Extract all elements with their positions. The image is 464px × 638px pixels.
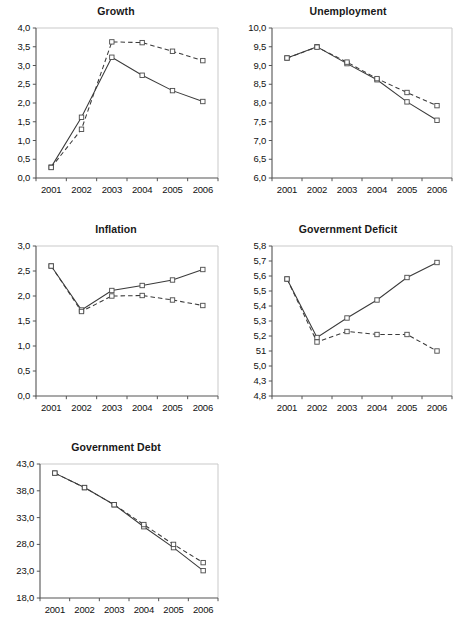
data-point-marker xyxy=(315,335,319,339)
chart-title-government-debt: Government Debt xyxy=(0,440,232,454)
y-tick-label: 23,0 xyxy=(16,566,34,576)
data-point-marker xyxy=(315,45,319,49)
data-point-marker xyxy=(142,522,146,526)
plot-frame xyxy=(40,464,218,598)
y-tick-label: 7,5 xyxy=(253,117,266,127)
chart-title-unemployment: Unemployment xyxy=(232,4,464,18)
data-point-marker xyxy=(435,260,439,264)
y-tick-label: 10,0 xyxy=(248,23,266,33)
y-tick-label: 2,5 xyxy=(17,80,30,90)
data-point-marker xyxy=(435,118,439,122)
x-tick-label: 2005 xyxy=(162,403,182,413)
data-point-marker xyxy=(49,165,53,169)
y-tick-label: 5,7 xyxy=(253,256,266,266)
data-point-marker xyxy=(110,55,114,59)
y-tick-label: 0,5 xyxy=(17,155,30,165)
data-point-marker xyxy=(79,309,83,313)
data-point-marker xyxy=(79,127,83,131)
data-point-marker xyxy=(201,58,205,62)
chart-title-growth: Growth xyxy=(0,4,232,18)
y-tick-label: 0,0 xyxy=(17,391,30,401)
y-tick-label: 43,0 xyxy=(16,459,34,469)
chart-panel-government-debt: Government Debt 18,023,028,033,038,043,0… xyxy=(0,440,232,636)
data-point-marker xyxy=(285,277,289,281)
data-point-marker xyxy=(435,349,439,353)
y-tick-label: 5,6 xyxy=(253,271,266,281)
y-tick-label: 3,5 xyxy=(17,42,30,52)
data-point-marker xyxy=(201,568,205,572)
y-tick-label: 9,5 xyxy=(253,42,266,52)
y-tick-label: 2,5 xyxy=(17,266,30,276)
x-tick-label: 2002 xyxy=(74,605,94,615)
x-tick-label: 2001 xyxy=(45,605,65,615)
data-point-marker xyxy=(112,503,116,507)
y-tick-label: 28,0 xyxy=(16,540,34,550)
series-line-solid xyxy=(287,263,437,338)
y-tick-label: 0,0 xyxy=(17,173,30,183)
data-point-marker xyxy=(140,283,144,287)
y-tick-label: 3,0 xyxy=(17,61,30,71)
series-line-solid xyxy=(51,57,203,167)
data-point-marker xyxy=(170,278,174,282)
x-tick-label: 2003 xyxy=(337,185,357,195)
y-tick-label: 8,0 xyxy=(253,98,266,108)
data-point-marker xyxy=(79,115,83,119)
x-tick-label: 2004 xyxy=(132,185,152,195)
y-tick-label: 3,0 xyxy=(17,241,30,251)
y-tick-label: 7,0 xyxy=(253,136,266,146)
data-point-marker xyxy=(375,332,379,336)
x-tick-label: 2001 xyxy=(41,185,61,195)
data-point-marker xyxy=(375,298,379,302)
y-tick-label: 5,5 xyxy=(253,286,266,296)
data-point-marker xyxy=(435,103,439,107)
data-point-marker xyxy=(49,264,53,268)
data-point-marker xyxy=(140,40,144,44)
axis-lines xyxy=(272,28,452,178)
x-tick-label: 2006 xyxy=(193,403,213,413)
y-axis-labels: 6,06,57,07,58,08,59,09,510,0 xyxy=(232,18,268,214)
chart-panel-government-deficit: Government Deficit 4,84,35,0515,25,35,45… xyxy=(232,222,464,434)
y-tick-label: 1,5 xyxy=(17,117,30,127)
data-point-marker xyxy=(345,60,349,64)
y-tick-label: 4,3 xyxy=(253,376,266,386)
axis-lines xyxy=(40,464,218,598)
axis-lines xyxy=(36,28,218,178)
x-tick-label: 2002 xyxy=(307,403,327,413)
x-tick-label: 2001 xyxy=(277,185,297,195)
data-point-marker xyxy=(140,73,144,77)
data-point-marker xyxy=(170,298,174,302)
y-tick-label: 0,5 xyxy=(17,366,30,376)
x-tick-label: 2003 xyxy=(102,185,122,195)
x-tick-label: 2001 xyxy=(277,403,297,413)
x-tick-label: 2005 xyxy=(397,403,417,413)
data-point-marker xyxy=(201,560,205,564)
axis-lines xyxy=(36,246,218,396)
chart-panel-inflation: Inflation 0,00,51,01,52,02,53,0200120022… xyxy=(0,222,232,434)
plot-frame xyxy=(36,28,218,178)
data-point-marker xyxy=(171,542,175,546)
y-tick-label: 1,5 xyxy=(17,316,30,326)
data-point-marker xyxy=(170,88,174,92)
y-tick-label: 38,0 xyxy=(16,486,34,496)
x-tick-label: 2006 xyxy=(427,185,447,195)
y-tick-label: 18,0 xyxy=(16,593,34,603)
y-tick-label: 5,4 xyxy=(253,301,266,311)
data-point-marker xyxy=(201,303,205,307)
y-axis-labels: 18,023,028,033,038,043,0 xyxy=(0,454,36,634)
y-tick-label: 6,5 xyxy=(253,155,266,165)
y-tick-label: 8,5 xyxy=(253,80,266,90)
data-point-marker xyxy=(140,293,144,297)
plot-area-government-deficit: 4,84,35,0515,25,35,45,55,65,75,820012002… xyxy=(232,236,464,432)
data-point-marker xyxy=(170,49,174,53)
series-line-solid xyxy=(51,266,203,310)
chart-title-government-deficit: Government Deficit xyxy=(232,222,464,236)
series-line-dashed xyxy=(51,42,203,168)
chart-panel-unemployment: Unemployment 6,06,57,07,58,08,59,09,510,… xyxy=(232,4,464,216)
data-point-marker xyxy=(405,90,409,94)
data-point-marker xyxy=(110,288,114,292)
plot-area-growth: 0,00,51,01,52,02,53,03,54,02001200220032… xyxy=(0,18,232,214)
data-point-marker xyxy=(375,76,379,80)
plot-area-government-debt: 18,023,028,033,038,043,02001200220032004… xyxy=(0,454,232,634)
x-tick-label: 2004 xyxy=(132,403,152,413)
x-tick-label: 2006 xyxy=(427,403,447,413)
